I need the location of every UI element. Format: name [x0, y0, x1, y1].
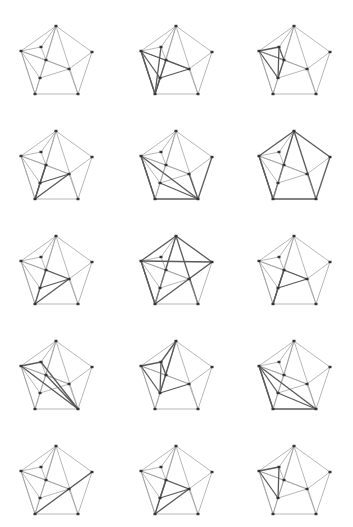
graph-node: [77, 198, 80, 200]
graph-edge: [316, 367, 330, 409]
graph-node: [154, 198, 157, 200]
graph-node: [278, 256, 281, 258]
graph-node: [165, 269, 168, 271]
graph-node: [188, 383, 191, 385]
graph-edge: [46, 60, 69, 69]
graph-edge: [279, 152, 284, 165]
graph-node: [329, 471, 332, 473]
graph-node: [329, 261, 332, 263]
graph-node: [140, 365, 143, 367]
graph-edge: [307, 489, 316, 514]
graph-node: [272, 93, 275, 95]
graph-node: [55, 445, 58, 447]
graph-edge: [56, 26, 78, 94]
graph-node: [175, 235, 178, 237]
graph-node: [258, 365, 261, 367]
graph-panel-9: [238, 210, 353, 315]
graph-edge: [161, 26, 176, 47]
graph-edge: [284, 480, 307, 489]
graph-node: [45, 59, 48, 61]
graph-drawing: [0, 105, 118, 210]
graph-edge: [56, 341, 78, 409]
graph-node: [197, 198, 200, 200]
graph-edge: [21, 51, 35, 94]
graph-edge: [259, 366, 278, 393]
graph-node: [55, 130, 58, 132]
graph-edge: [56, 131, 78, 199]
graph-node: [55, 25, 58, 27]
graph-drawing: [0, 420, 118, 525]
graph-node: [329, 156, 332, 158]
graph-edge: [316, 472, 330, 514]
graph-edge: [41, 341, 56, 362]
graph-drawing: [238, 315, 353, 420]
graph-node: [154, 513, 157, 515]
graph-node: [160, 466, 163, 468]
graph-panel-10: [0, 315, 118, 420]
graph-edge: [189, 384, 198, 409]
graph-edge: [40, 69, 69, 78]
graph-edge: [316, 157, 330, 199]
graph-edge: [141, 51, 155, 94]
graph-edge: [78, 472, 92, 514]
graph-edge: [21, 156, 35, 199]
graph-edge: [69, 52, 92, 69]
graph-edge: [41, 467, 46, 480]
graph-edge: [278, 467, 279, 498]
graph-edge: [198, 472, 212, 514]
graph-edge: [307, 279, 316, 304]
graph-edge: [161, 152, 166, 165]
graph-edge: [46, 165, 69, 174]
graph-edge: [161, 362, 166, 375]
graph-panel-7: [0, 210, 118, 315]
graph-node: [175, 130, 178, 132]
graph-edge: [141, 156, 160, 183]
graph-edge: [294, 131, 330, 157]
graph-edge: [259, 51, 273, 94]
graph-edge: [259, 261, 278, 288]
graph-edge: [78, 157, 92, 199]
graph-edge: [56, 446, 78, 514]
graph-node: [293, 340, 296, 342]
graph-node: [91, 366, 94, 368]
graph-edge: [41, 446, 56, 467]
graph-edge: [166, 375, 189, 384]
graph-edge: [166, 165, 189, 174]
graph-edge: [294, 236, 316, 304]
graph-node: [283, 269, 286, 271]
graph-edge: [40, 480, 46, 498]
graph-edge: [259, 156, 278, 183]
graph-edge: [278, 47, 279, 78]
graph-node: [277, 182, 280, 184]
graph-node: [39, 497, 42, 499]
graph-edge: [46, 480, 69, 489]
graph-node: [68, 173, 71, 175]
graph-edge: [198, 367, 212, 409]
graph-edge: [41, 152, 46, 165]
graph-edge: [307, 262, 330, 279]
graph-edge: [284, 165, 307, 174]
graph-drawing: [120, 105, 238, 210]
graph-edge: [21, 261, 35, 304]
graph-edge: [161, 467, 166, 480]
graph-edge: [155, 47, 161, 94]
graph-edge: [294, 236, 330, 262]
graph-node: [154, 408, 157, 410]
graph-edge: [69, 489, 78, 514]
graph-node: [277, 392, 280, 394]
graph-node: [20, 50, 23, 52]
graph-edge: [41, 47, 46, 60]
graph-node: [283, 164, 286, 166]
graph-drawing: [0, 210, 118, 315]
graph-edge: [279, 257, 284, 270]
graph-node: [159, 77, 162, 79]
graph-edge: [56, 131, 92, 157]
graph-node: [293, 130, 296, 132]
graph-node: [211, 471, 214, 473]
graph-edge: [279, 446, 294, 467]
graph-node: [329, 366, 332, 368]
graph-node: [140, 260, 143, 262]
graph-node: [188, 278, 191, 280]
graph-edge: [161, 257, 166, 270]
graph-edge: [160, 384, 189, 393]
